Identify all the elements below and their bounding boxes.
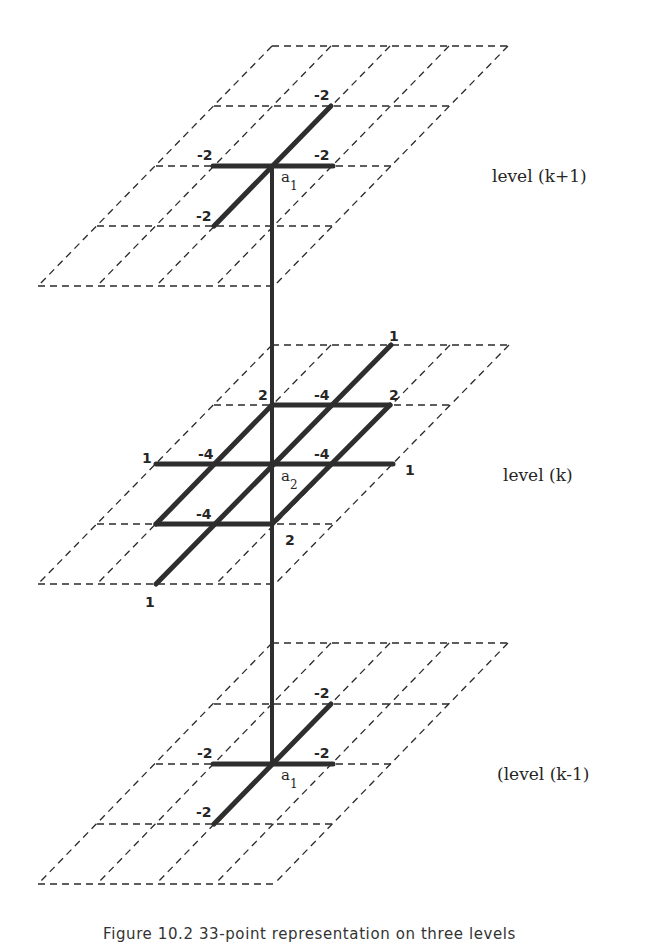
- weight-label: -2: [197, 745, 213, 761]
- weight-label: -4: [314, 446, 330, 462]
- node-index: 2: [290, 478, 298, 492]
- weight-label: -2: [314, 745, 330, 761]
- stencil-level-k: [156, 345, 393, 584]
- weight-label: 2: [285, 532, 295, 548]
- weight-label: -4: [314, 387, 330, 403]
- node-index: 1: [290, 777, 298, 791]
- node-label: a: [281, 467, 290, 485]
- level-label-k-minus-1: (level (k-1): [497, 764, 589, 784]
- weight-label: -2: [197, 147, 213, 163]
- weight-label: 2: [389, 387, 399, 403]
- weight-label: -2: [196, 804, 212, 820]
- weight-label: 1: [142, 450, 152, 466]
- figure-caption: Figure 10.2 33-point representation on t…: [103, 925, 516, 943]
- weight-label: 1: [389, 328, 399, 344]
- node-index: 1: [290, 179, 298, 193]
- node-label: a: [281, 766, 290, 784]
- weight-label: 2: [258, 387, 268, 403]
- weight-label: -2: [314, 685, 330, 701]
- node-label: a: [281, 168, 290, 186]
- weight-label: 1: [405, 462, 415, 478]
- weight-label: 1: [145, 594, 155, 610]
- weight-label: -4: [196, 506, 212, 522]
- level-label-k-plus-1: level (k+1): [492, 166, 587, 186]
- weight-label: -4: [198, 446, 214, 462]
- weight-label: -2: [196, 208, 212, 224]
- weight-label: -2: [314, 87, 330, 103]
- weight-label: -2: [314, 147, 330, 163]
- level-label-k: level (k): [503, 465, 573, 485]
